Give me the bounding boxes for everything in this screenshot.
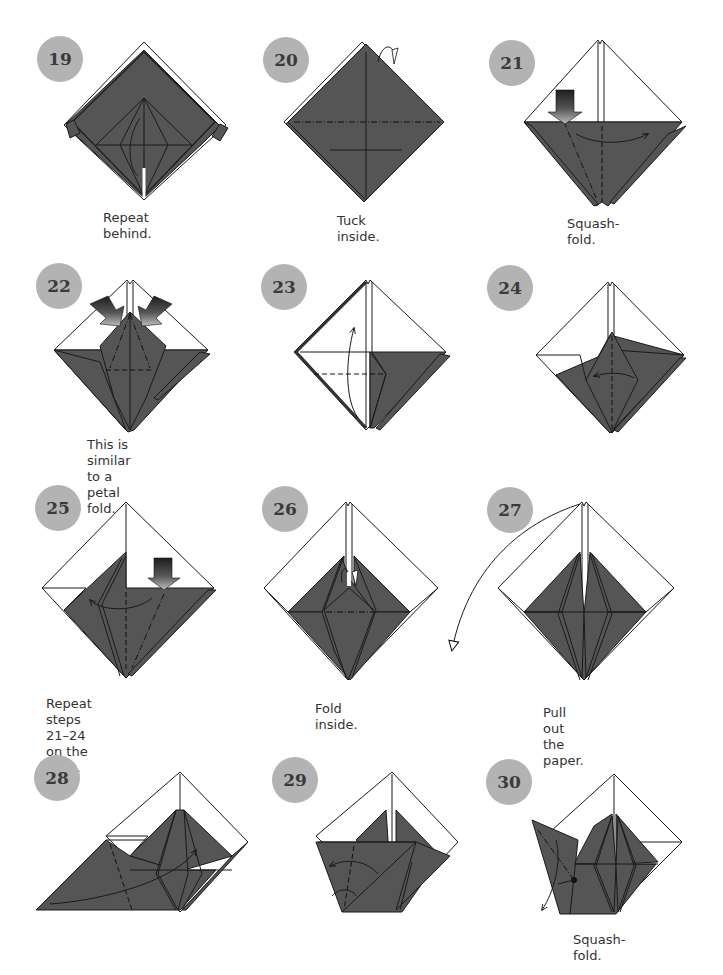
step-number-badge: 24 — [487, 265, 533, 311]
step-caption: Pull out the paper. — [543, 705, 584, 769]
step-caption: Tuck inside. — [337, 213, 380, 245]
diagram-step-23 — [290, 278, 460, 448]
step-caption: Repeat behind. — [103, 210, 152, 242]
step-caption: Squash-fold. — [573, 932, 625, 964]
diagram-step-20 — [290, 38, 460, 203]
diagram-step-30 — [530, 772, 710, 927]
diagram-step-29 — [316, 770, 496, 920]
step-number-badge: 29 — [272, 757, 318, 803]
diagram-step-22 — [50, 278, 220, 438]
pull-arrow — [430, 500, 610, 670]
diagram-step-24 — [534, 280, 704, 450]
diagram-step-28 — [36, 770, 256, 915]
step-caption: Fold inside. — [315, 701, 358, 733]
diagram-step-19 — [60, 38, 230, 203]
step-number-badge: 30 — [486, 759, 532, 805]
diagram-step-21 — [518, 38, 693, 213]
step-caption: Squash-fold. — [567, 216, 619, 248]
diagram-step-26 — [262, 500, 442, 685]
diagram-step-25 — [40, 500, 220, 685]
